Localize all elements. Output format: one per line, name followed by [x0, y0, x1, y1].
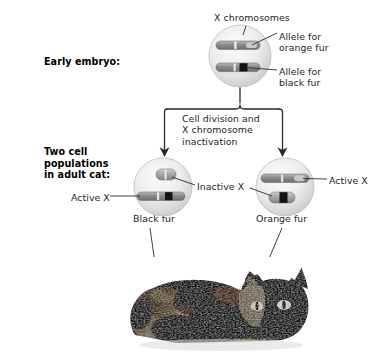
black-cell-inactive-x-chromosome — [156, 169, 176, 180]
allele-marker-black-active — [165, 192, 173, 200]
callout-allele-black-fur: Allele for black fur — [279, 66, 321, 89]
callout-active-x-left: Active X — [71, 192, 110, 203]
leader-inactive-x-left — [172, 177, 195, 185]
allele-marker-orange — [246, 42, 257, 48]
leader-inactive-x-right — [250, 188, 272, 196]
callout-active-x-right: Active X — [329, 175, 368, 186]
orange-cell-inactive-x-chromosome — [269, 192, 295, 203]
leader-allele-black — [246, 68, 277, 71]
leader-active-x-right — [303, 179, 327, 180]
allele-marker-black-inactive — [280, 192, 288, 203]
black-fur-cell — [110, 158, 195, 216]
callout-cell-division-inactivation: Cell division and X chromosome inactivat… — [182, 113, 260, 147]
stage-label-early-embryo: Early embryo: — [44, 56, 120, 68]
callout-orange-fur: Orange fur — [256, 213, 307, 224]
embryo-chromosome-black-allele — [216, 63, 260, 72]
embryo-cell — [209, 25, 277, 87]
callout-x-chromosomes: X chromosomes — [214, 12, 290, 23]
leader-allele-orange — [252, 33, 277, 45]
allele-marker-black — [240, 63, 248, 71]
leader-x-chromosomes — [243, 26, 246, 35]
stage-label-adult-cat: Two cell populations in adult cat: — [44, 146, 110, 181]
x-inactivation-diagram: Early embryo: Two cell populations in ad… — [0, 0, 383, 362]
orange-cell-active-x-chromosome — [261, 174, 309, 182]
embryo-chromosome-orange-allele — [216, 41, 260, 49]
black-cell-active-x-chromosome — [137, 192, 185, 200]
tortoiseshell-cat-photo — [117, 257, 330, 353]
allele-marker-orange-active — [294, 175, 305, 181]
callout-inactive-x: Inactive X — [197, 181, 244, 192]
orange-fur-cell — [250, 158, 327, 216]
callout-allele-orange-fur: Allele for orange fur — [279, 31, 329, 54]
callout-black-fur: Black fur — [133, 213, 175, 224]
